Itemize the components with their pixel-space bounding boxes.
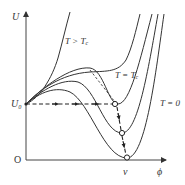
v-tick-label: v	[123, 167, 127, 177]
u0-point	[24, 102, 27, 105]
minimum-marker-3	[124, 155, 129, 160]
minimum-marker-1	[112, 101, 117, 106]
diagram-canvas	[0, 0, 185, 185]
x-axis-label: ϕ	[157, 167, 162, 177]
y-axis-label: U	[12, 12, 19, 22]
label-t-above-tc: T > Tc	[65, 37, 88, 46]
minimum-marker-2	[119, 130, 124, 135]
origin-label: O	[14, 155, 21, 165]
curve-intermediate-2	[26, 14, 158, 133]
potential-diagram: U U₀ O v ϕ T > Tc T = Tc T = 0	[0, 0, 185, 185]
path-arrows	[52, 104, 124, 146]
transition-paths	[26, 70, 126, 155]
vertical-path-1	[117, 107, 121, 130]
potential-curves	[26, 12, 164, 158]
tc-max-to-min-path	[90, 70, 115, 102]
label-t-equals-tc: T = Tc	[115, 71, 138, 80]
u0-label: U₀	[11, 99, 22, 109]
label-t-zero: T = 0	[160, 99, 180, 108]
